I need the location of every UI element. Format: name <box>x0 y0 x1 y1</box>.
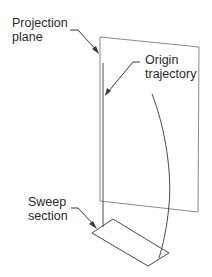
projection-plane-label-line1: Projection <box>12 16 68 30</box>
origin-trajectory-label-line1: Origin <box>145 53 178 67</box>
sweep-section-label-line1: Sweep <box>28 195 66 209</box>
sweep-section-leader <box>71 208 97 229</box>
origin-trajectory-leader <box>105 62 140 96</box>
sweep-section-shape <box>92 219 169 266</box>
projection-plane-label-line2: plane <box>12 30 43 44</box>
arrowhead-icon <box>89 221 97 229</box>
projected-curve <box>152 94 170 258</box>
sweep-diagram: Projection plane Origin trajectory Sweep… <box>0 0 212 277</box>
projection-plane-leader <box>70 30 99 54</box>
origin-trajectory-label-line2: trajectory <box>145 67 197 81</box>
sweep-section-label-line2: section <box>28 209 68 223</box>
